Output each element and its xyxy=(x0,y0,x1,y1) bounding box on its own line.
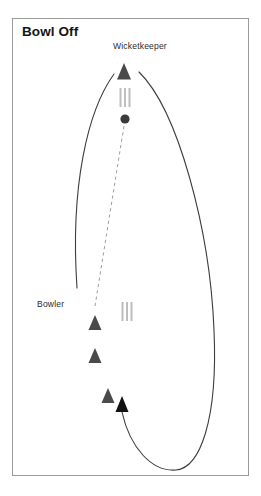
bowl-off-diagram: Bowl Off Wicketkeeper Bowler xyxy=(0,0,261,496)
right-approach-arc xyxy=(122,72,215,470)
stumps-icon-keeper-end xyxy=(120,88,131,107)
delivery-dashed-path xyxy=(95,126,124,306)
triangle-marker-bowler-2 xyxy=(89,348,102,363)
stumps-icon-bowler-end xyxy=(122,302,133,321)
triangle-marker-bowler-1 xyxy=(89,315,102,330)
diagram-artwork xyxy=(0,0,261,496)
left-run-up-arc xyxy=(75,74,114,288)
arrow-up-icon xyxy=(116,396,129,412)
ball-icon xyxy=(120,114,129,123)
triangle-marker-wicketkeeper xyxy=(117,63,131,80)
triangle-marker-bowler-3 xyxy=(102,388,115,403)
